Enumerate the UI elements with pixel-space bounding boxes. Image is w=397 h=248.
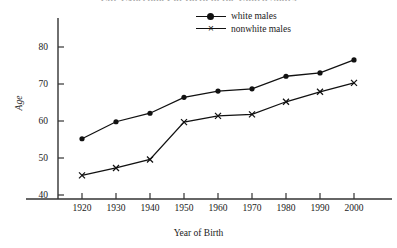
legend-marker-filled-circle-icon [196, 10, 226, 22]
data-series-layer [79, 57, 357, 178]
x-tick-label: 1920 [65, 203, 99, 213]
y-tick-label: 50 [22, 153, 48, 163]
x-tick-label: 1960 [201, 203, 235, 213]
y-tick-label: 60 [22, 116, 48, 126]
x-axis-title: Year of Birth [0, 228, 397, 238]
legend-marker-cross-icon: × [196, 23, 226, 35]
y-tick-label: 40 [22, 190, 48, 200]
chart-title: Life Expectancy at Birth in the United S… [0, 0, 397, 1]
y-tick-label: 80 [22, 42, 48, 52]
legend-label-white-males: white males [231, 10, 277, 23]
legend-item-white-males: white males [196, 10, 291, 23]
chart-legend: white males × nonwhite males [196, 10, 291, 35]
x-tick-label: 1930 [99, 203, 133, 213]
legend-item-nonwhite-males: × nonwhite males [196, 23, 291, 36]
x-tick-label: 1940 [133, 203, 167, 213]
y-tick-label: 70 [22, 79, 48, 89]
x-tick-label: 1980 [269, 203, 303, 213]
x-tick-label: 1950 [167, 203, 201, 213]
x-tick-label: 2000 [337, 203, 371, 213]
legend-label-nonwhite-males: nonwhite males [231, 23, 291, 36]
chart-figure: Life Expectancy at Birth in the United S… [0, 0, 397, 248]
y-axis-title: Age [14, 88, 24, 118]
axis-tick-marks [58, 47, 354, 199]
x-tick-label: 1990 [303, 203, 337, 213]
x-tick-label: 1970 [235, 203, 269, 213]
axis-lines [26, 18, 392, 199]
